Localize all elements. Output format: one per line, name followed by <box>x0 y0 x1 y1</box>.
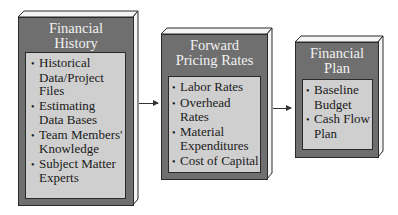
box-face: Financial Plan Baseline Budget Cash Flow… <box>295 42 379 158</box>
list-item: Baseline Budget <box>306 83 370 111</box>
title-line: Financial <box>296 46 378 61</box>
box-title: Financial Plan <box>296 46 378 76</box>
title-line: Plan <box>296 61 378 76</box>
items-panel: Baseline Budget Cash Flow Plan <box>302 79 373 150</box>
list-item: Cash Flow Plan <box>306 112 370 140</box>
